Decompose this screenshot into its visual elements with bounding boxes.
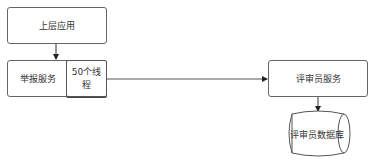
reviewer-db-label: 评审员数据库 xyxy=(290,128,344,141)
report-service-label: 举报服务 xyxy=(20,72,56,85)
thread-pool-node: 50个线程 xyxy=(66,60,107,97)
reviewer-service-label: 评审员服务 xyxy=(296,72,341,85)
upper-app-label: 上层应用 xyxy=(39,19,75,32)
reviewer-db-node: 评审员数据库 xyxy=(288,114,346,154)
reviewer-service-node: 评审员服务 xyxy=(268,60,368,97)
upper-app-node: 上层应用 xyxy=(7,7,107,44)
thread-pool-label: 50个线程 xyxy=(72,66,102,92)
